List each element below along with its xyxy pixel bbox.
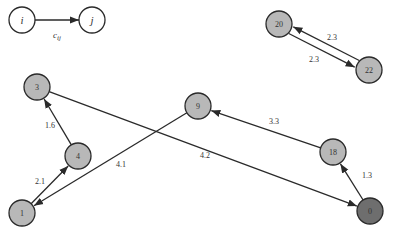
- edge-weight-label: 4.1: [116, 160, 126, 169]
- legend: i j cij: [9, 7, 105, 42]
- edge-n22-n20: [293, 27, 359, 61]
- edge-weight-label: 2.3: [309, 55, 319, 64]
- graph-node-0: 0: [357, 198, 383, 224]
- graph-node-1: 1: [9, 200, 35, 226]
- legend-node-i-label: i: [20, 14, 23, 26]
- edge-n9-n1: [34, 113, 187, 206]
- legend-edge-label-sub: ij: [57, 34, 61, 42]
- edge-weight-label: 3.3: [269, 117, 279, 126]
- edge-n0-n18: [340, 164, 363, 200]
- graph-node-9: 9: [185, 93, 211, 119]
- node-label: 22: [365, 66, 373, 75]
- node-label: 4: [76, 152, 80, 161]
- graph-node-22: 22: [356, 57, 382, 83]
- node-label: 1: [20, 209, 24, 218]
- edge-weight-label: 2.1: [35, 177, 45, 186]
- node-label: 20: [275, 20, 283, 29]
- nodes-layer: 20223419180: [9, 11, 383, 226]
- graph-node-4: 4: [65, 143, 91, 169]
- edge-weight-label: 1.3: [362, 171, 372, 180]
- edge-weight-label: 1.6: [45, 121, 55, 130]
- legend-edge-label: cij: [53, 30, 61, 42]
- edge-weight-label: 2.3: [327, 33, 337, 42]
- graph-node-3: 3: [24, 74, 50, 100]
- node-label: 0: [368, 207, 372, 216]
- graph-node-18: 18: [320, 139, 346, 165]
- node-label: 9: [196, 102, 200, 111]
- edge-n18-n9: [211, 111, 320, 148]
- edge-n20-n22: [289, 33, 355, 67]
- graph-node-20: 20: [266, 11, 292, 37]
- node-label: 3: [35, 83, 39, 92]
- graph-canvas: i j cij 2.32.31.62.14.14.23.31.3 2022341…: [0, 0, 396, 237]
- node-label: 18: [329, 148, 337, 157]
- edge-weight-label: 4.2: [200, 151, 210, 160]
